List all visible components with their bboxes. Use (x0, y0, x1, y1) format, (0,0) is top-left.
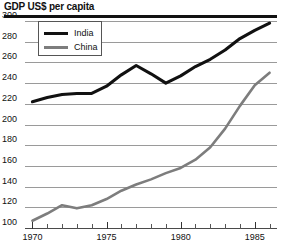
x-axis-tick (225, 224, 226, 229)
x-axis-tick (210, 224, 211, 229)
x-axis-tick (255, 222, 256, 229)
y-axis-tick-label: 300 (2, 11, 24, 20)
y-axis-tick-label: 280 (2, 32, 24, 41)
x-axis-tick (121, 224, 122, 229)
y-axis-tick-label: 240 (2, 73, 24, 82)
x-axis-tick-label: 1980 (171, 232, 191, 242)
legend-swatch-china-icon (44, 46, 68, 49)
x-axis-tick (32, 222, 33, 229)
y-axis-tick-label: 120 (2, 197, 24, 206)
x-axis-tick (181, 222, 182, 229)
x-axis-tick (166, 224, 167, 229)
x-axis-tick (151, 224, 152, 229)
legend-item-china: China (39, 40, 101, 54)
x-axis-tick (136, 224, 137, 229)
x-axis-tick-label: 1975 (97, 232, 117, 242)
x-axis-tick-label: 1985 (245, 232, 265, 242)
y-axis-tick-label: 100 (2, 218, 24, 227)
x-axis-tick (195, 224, 196, 229)
x-axis-tick (270, 224, 271, 229)
y-axis-tick-label: 160 (2, 156, 24, 165)
x-axis-tick (47, 224, 48, 229)
legend-item-india: India (39, 26, 101, 40)
legend-label-china: China (74, 42, 98, 52)
y-axis-tick-label: 140 (2, 177, 24, 186)
y-axis-tick-label: 200 (2, 115, 24, 124)
x-axis-tick (240, 224, 241, 229)
x-axis-tick (92, 224, 93, 229)
x-axis-tick (77, 224, 78, 229)
y-axis-tick-label: 180 (2, 135, 24, 144)
title-divider (4, 15, 277, 18)
legend-label-india: India (74, 28, 94, 38)
legend: India China (38, 21, 102, 56)
gdp-per-capita-chart: GDP US$ per capita 300280260240220200180… (0, 0, 281, 247)
y-axis-tick-label: 260 (2, 52, 24, 61)
x-axis-tick (107, 222, 108, 229)
y-axis-tick-label: 220 (2, 94, 24, 103)
x-axis-tick (62, 224, 63, 229)
x-axis-tick-label: 1970 (22, 232, 42, 242)
legend-swatch-india-icon (44, 32, 68, 35)
